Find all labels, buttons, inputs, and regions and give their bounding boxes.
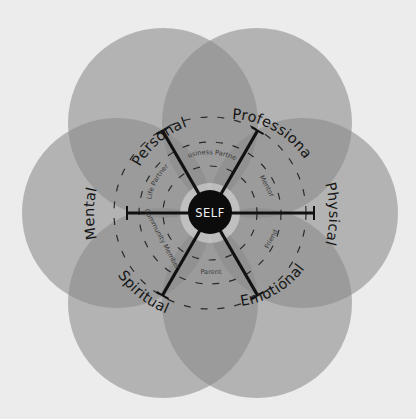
label-mental: Mental xyxy=(81,185,100,241)
diagram-canvas: SELF Personal Professional Physical Emot… xyxy=(0,0,416,419)
self-relationship-diagram: SELF Personal Professional Physical Emot… xyxy=(0,0,416,419)
self-label: SELF xyxy=(195,206,225,220)
label-parent: Parent xyxy=(200,268,222,276)
